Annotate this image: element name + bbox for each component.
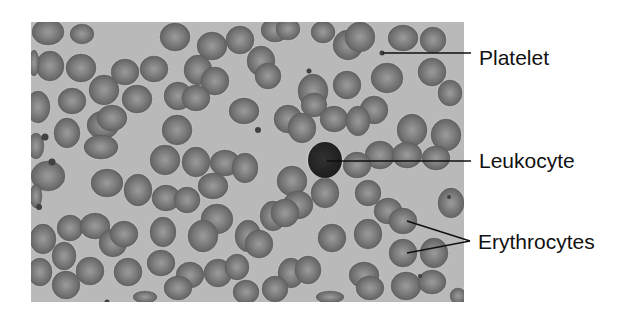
film-grain-overlay xyxy=(31,22,464,302)
label-erythrocytes: Erythrocytes xyxy=(478,231,595,252)
label-platelet: Platelet xyxy=(479,47,549,68)
label-leukocyte: Leukocyte xyxy=(479,150,575,171)
blood-smear-figure: Platelet Leukocyte Erythrocytes xyxy=(0,0,641,315)
